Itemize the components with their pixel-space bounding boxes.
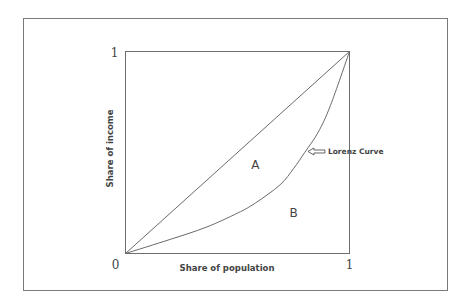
region-a-label: A	[251, 158, 260, 172]
x-tick-1: 1	[346, 258, 354, 272]
left-arrow-icon	[308, 148, 325, 155]
y-tick-1: 1	[111, 46, 119, 60]
lorenz-curve-annotation: Lorenz Curve	[328, 147, 384, 156]
y-axis-label: Share of income	[105, 109, 115, 187]
origin-label: 0	[112, 258, 120, 272]
lorenz-diagram: 1 0 1 Share of population Share of incom…	[0, 0, 472, 306]
x-axis-label: Share of population	[180, 263, 275, 273]
region-b-label: B	[289, 206, 297, 220]
